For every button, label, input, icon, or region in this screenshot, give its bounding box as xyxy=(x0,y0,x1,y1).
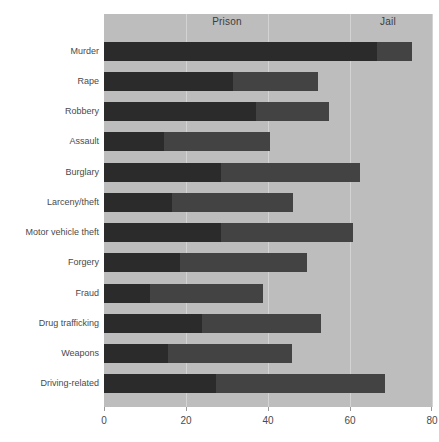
bar-segment-forgery-jail xyxy=(180,253,307,272)
x-tick-label-60: 60 xyxy=(344,415,355,426)
x-axis: 0 20 40 60 80 xyxy=(104,407,432,437)
category-label-burglary: Burglary xyxy=(0,167,99,178)
x-tick-label-0: 0 xyxy=(101,415,107,426)
bar-segment-robbery-prison xyxy=(104,102,256,121)
bar-rape xyxy=(104,72,432,91)
bar-segment-weapons-jail xyxy=(168,344,292,363)
bar-segment-forgery-prison xyxy=(104,253,180,272)
bar-forgery xyxy=(104,253,432,272)
bar-segment-robbery-jail xyxy=(256,102,330,121)
bar-segment-motor-vehicle-theft-jail xyxy=(221,223,353,242)
bar-burglary xyxy=(104,163,432,182)
bar-segment-larceny-theft-prison xyxy=(104,193,172,212)
category-label-weapons: Weapons xyxy=(0,348,99,359)
x-tick-0 xyxy=(104,407,105,411)
category-label-drug-trafficking: Drug trafficking xyxy=(0,318,99,329)
bar-larceny-theft xyxy=(104,193,432,212)
bar-robbery xyxy=(104,102,432,121)
category-label-robbery: Robbery xyxy=(0,106,99,117)
bar-murder xyxy=(104,42,432,61)
bar-segment-larceny-theft-jail xyxy=(172,193,293,212)
bar-assault xyxy=(104,132,432,151)
bar-segment-burglary-jail xyxy=(221,163,360,182)
category-label-larceny-theft: Larceny/theft xyxy=(0,197,99,208)
bar-segment-fraud-jail xyxy=(150,284,263,303)
bar-segment-drug-trafficking-prison xyxy=(104,314,202,333)
bar-motor-vehicle-theft xyxy=(104,223,432,242)
bar-segment-rape-prison xyxy=(104,72,233,91)
bar-driving-related xyxy=(104,374,432,393)
category-label-assault: Assault xyxy=(0,136,99,147)
bar-fraud xyxy=(104,284,432,303)
bar-segment-murder-jail xyxy=(377,42,412,61)
category-label-driving-related: Driving-related xyxy=(0,378,99,389)
x-tick-60 xyxy=(350,407,351,411)
bar-segment-burglary-prison xyxy=(104,163,221,182)
bar-segment-drug-trafficking-jail xyxy=(202,314,321,333)
x-tick-label-20: 20 xyxy=(180,415,191,426)
category-axis-labels: Murder Rape Robbery Assault Burglary Lar… xyxy=(0,14,99,407)
stacked-bar-chart: Murder Rape Robbery Assault Burglary Lar… xyxy=(0,0,439,442)
bar-segment-fraud-prison xyxy=(104,284,150,303)
bar-weapons xyxy=(104,344,432,363)
category-label-fraud: Fraud xyxy=(0,288,99,299)
bar-segment-weapons-prison xyxy=(104,344,168,363)
bar-segment-driving-related-prison xyxy=(104,374,216,393)
bar-segment-driving-related-jail xyxy=(216,374,385,393)
bar-segment-motor-vehicle-theft-prison xyxy=(104,223,221,242)
bar-drug-trafficking xyxy=(104,314,432,333)
gridline-80 xyxy=(432,14,433,407)
x-tick-20 xyxy=(186,407,187,411)
x-tick-40 xyxy=(268,407,269,411)
x-tick-80 xyxy=(431,407,432,411)
plot-area: Prison Jail xyxy=(104,14,432,407)
bar-segment-rape-jail xyxy=(233,72,318,91)
bar-segment-assault-jail xyxy=(164,132,270,151)
category-label-murder: Murder xyxy=(0,46,99,57)
bar-segment-assault-prison xyxy=(104,132,164,151)
x-tick-label-40: 40 xyxy=(262,415,273,426)
category-label-motor-vehicle-theft: Motor vehicle theft xyxy=(0,227,99,238)
bars-layer xyxy=(104,14,432,407)
category-label-forgery: Forgery xyxy=(0,257,99,268)
bar-segment-murder-prison xyxy=(104,42,377,61)
category-label-rape: Rape xyxy=(0,76,99,87)
x-tick-label-80: 80 xyxy=(426,415,437,426)
